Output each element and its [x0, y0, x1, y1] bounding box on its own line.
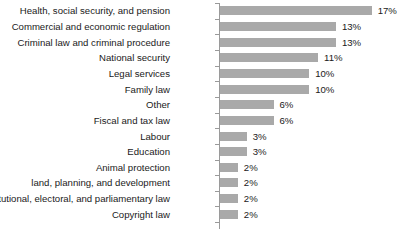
bar-value-label: 2% — [244, 177, 258, 188]
bar-value-label: 2% — [244, 209, 258, 220]
bar — [220, 53, 318, 62]
category-label: Family law — [0, 84, 175, 95]
bar-with-value: 3% — [220, 128, 267, 144]
bar-row: Criminal law and criminal procedure13% — [0, 34, 394, 50]
bar — [220, 194, 238, 203]
bar-value-label: 3% — [253, 131, 267, 142]
bar-value-label: 2% — [244, 162, 258, 173]
bar-with-value: 2% — [220, 160, 258, 176]
bar-with-value: 10% — [220, 66, 334, 82]
bar-value-label: 3% — [253, 146, 267, 157]
bar-with-value: 2% — [220, 206, 258, 222]
bar-with-value: 2% — [220, 175, 258, 191]
bar-row: Legal services10% — [0, 66, 394, 82]
category-label: Animal protection — [0, 162, 175, 173]
bar — [220, 85, 309, 94]
category-label: Criminal law and criminal procedure — [0, 37, 175, 48]
bar-value-label: 10% — [315, 68, 334, 79]
category-label: land, planning, and development — [0, 177, 175, 188]
bar — [220, 147, 247, 156]
bar-with-value: 3% — [220, 144, 267, 160]
bar-row: Copyright law2% — [0, 206, 394, 222]
bar-value-label: 2% — [244, 193, 258, 204]
bar — [220, 100, 274, 109]
bar-value-label: 13% — [342, 21, 361, 32]
bar-value-label: 13% — [342, 37, 361, 48]
bar — [220, 163, 238, 172]
category-label: Copyright law — [0, 209, 175, 220]
bar — [220, 6, 372, 15]
category-label: Other — [0, 99, 175, 110]
bar-with-value: 6% — [220, 97, 293, 113]
bar — [220, 38, 336, 47]
bar-row: Fiscal and tax law6% — [0, 113, 394, 129]
bar-row: Labour3% — [0, 128, 394, 144]
bar-row: Family law10% — [0, 81, 394, 97]
axis-tick — [215, 3, 219, 4]
category-label: Health, social security, and pension — [0, 5, 175, 16]
bar-row: land, planning, and development2% — [0, 175, 394, 191]
category-label: Legal services — [0, 68, 175, 79]
bar-value-label: 11% — [324, 52, 343, 63]
bar-row: National security11% — [0, 50, 394, 66]
category-label: Education — [0, 146, 175, 157]
bar-value-label: 6% — [280, 115, 294, 126]
bar-row: Health, social security, and pension17% — [0, 3, 394, 19]
bar-row: Other6% — [0, 97, 394, 113]
bar-value-label: 6% — [280, 99, 294, 110]
bar-row: Animal protection2% — [0, 160, 394, 176]
category-label: Labour — [0, 131, 175, 142]
axis-tick — [215, 222, 219, 223]
bar-with-value: 13% — [220, 19, 361, 35]
category-label: Constitutional, electoral, and parliamen… — [0, 193, 175, 204]
category-label: National security — [0, 52, 175, 63]
bar-row: Commercial and economic regulation13% — [0, 19, 394, 35]
bar-with-value: 2% — [220, 191, 258, 207]
bar-with-value: 10% — [220, 81, 334, 97]
bar — [220, 132, 247, 141]
bar-value-label: 17% — [378, 5, 397, 16]
bar-row: Education3% — [0, 144, 394, 160]
bar-with-value: 13% — [220, 34, 361, 50]
bar-with-value: 11% — [220, 50, 343, 66]
bar — [220, 178, 238, 187]
bar — [220, 210, 238, 219]
category-label: Commercial and economic regulation — [0, 21, 175, 32]
bar — [220, 116, 274, 125]
bar-value-label: 10% — [315, 84, 334, 95]
category-label: Fiscal and tax law — [0, 115, 175, 126]
bar-with-value: 17% — [220, 3, 397, 19]
bar-with-value: 6% — [220, 113, 293, 129]
bar-row: Constitutional, electoral, and parliamen… — [0, 191, 394, 207]
bar — [220, 22, 336, 31]
bar — [220, 69, 309, 78]
